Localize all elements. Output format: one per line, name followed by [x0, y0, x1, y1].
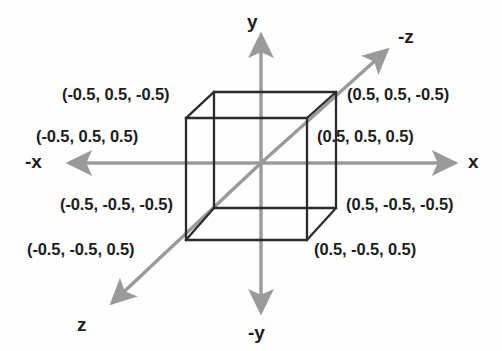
cube-edge-bottom-left — [186, 208, 214, 240]
axis-label-z: z — [77, 315, 87, 334]
axis-label-y: y — [247, 12, 258, 31]
vertex-label-front-top-right: (0.5, 0.5, 0.5) — [317, 128, 414, 145]
axis-label-x: x — [468, 152, 479, 171]
cube-edge-bottom-right — [307, 208, 336, 240]
vertex-label-back-bottom-right: (0.5, -0.5, -0.5) — [346, 196, 453, 213]
axis-label-minus-x: -x — [25, 152, 42, 171]
axis-label-minus-z: -z — [398, 27, 414, 46]
vertex-label-back-top-left: (-0.5, 0.5, -0.5) — [62, 86, 169, 103]
minus-z-axis-line — [261, 50, 387, 163]
vertex-label-back-top-right: (0.5, 0.5, -0.5) — [347, 86, 449, 103]
cube-edge-top-right — [307, 92, 336, 118]
cube-edge-top-left — [186, 92, 214, 118]
vertex-label-back-bottom-left: (-0.5, -0.5, -0.5) — [60, 196, 173, 213]
diagram-canvas: (-0.5, 0.5, -0.5) (-0.5, 0.5, 0.5) (0.5,… — [0, 0, 502, 351]
vertex-label-front-bottom-right: (0.5, -0.5, 0.5) — [314, 241, 416, 258]
vertex-label-front-top-left: (-0.5, 0.5, 0.5) — [36, 128, 138, 145]
axis-label-minus-y: -y — [248, 323, 265, 342]
vertex-label-front-bottom-left: (-0.5, -0.5, 0.5) — [27, 241, 134, 258]
coordinate-cube-svg — [0, 0, 502, 351]
